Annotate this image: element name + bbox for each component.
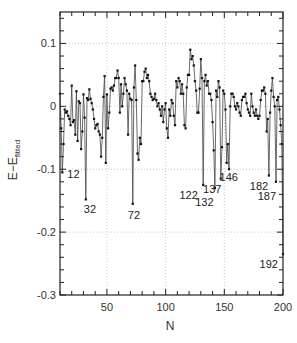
plot-frame	[60, 12, 283, 295]
svg-text:200: 200	[274, 301, 292, 313]
svg-text:100: 100	[156, 301, 174, 313]
svg-text:0.1: 0.1	[41, 37, 56, 49]
svg-text:150: 150	[215, 301, 233, 313]
chart: 123272122132137146182187192 50100150200 …	[0, 0, 297, 343]
y-axis-title: E−Efitted	[6, 140, 22, 180]
annotation-label: 187	[258, 190, 276, 202]
annotations: 123272122132137146182187192	[67, 168, 278, 270]
y-axis-title-sub: fitted	[13, 140, 22, 157]
y-axis-title-main: E−E	[6, 157, 20, 180]
annotation-label: 137	[203, 183, 221, 195]
annotation-label: 12	[67, 168, 79, 180]
annotation-label: 146	[220, 171, 238, 183]
annotation-label: 132	[195, 196, 213, 208]
svg-text:-0.3: -0.3	[37, 289, 56, 301]
svg-text:E−Efitted: E−Efitted	[6, 140, 22, 180]
annotation-label: 192	[260, 258, 278, 270]
svg-text:0: 0	[50, 100, 56, 112]
data-series	[59, 49, 284, 256]
x-tick-labels: 50100150200	[101, 301, 292, 313]
grid-lines	[60, 12, 283, 295]
annotation-label: 32	[84, 203, 96, 215]
y-tick-labels: 0.10-0.1-0.2-0.3	[37, 37, 56, 301]
svg-text:-0.2: -0.2	[37, 226, 56, 238]
axis-ticks	[60, 12, 283, 295]
svg-text:-0.1: -0.1	[37, 163, 56, 175]
svg-text:50: 50	[101, 301, 113, 313]
x-axis-title: N	[166, 319, 175, 333]
annotation-label: 72	[128, 209, 140, 221]
